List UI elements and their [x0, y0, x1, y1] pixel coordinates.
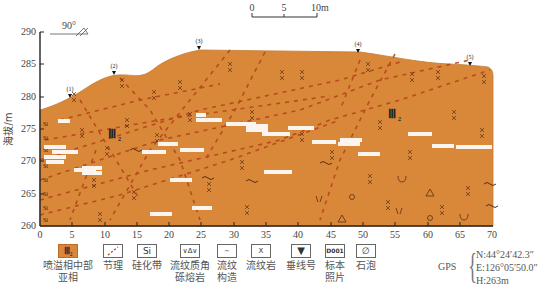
- svg-text:(3): (3): [196, 38, 203, 45]
- legend-item-rhyolitic-breccia-lava: ∨∆∨ 流纹质角 砾熔岩: [168, 244, 212, 284]
- subfacies-swatch-icon: Ⅲ₂: [58, 244, 78, 258]
- svg-text:270: 270: [21, 155, 36, 166]
- svg-text:55: 55: [390, 229, 400, 240]
- svg-text:70: 70: [487, 229, 497, 240]
- svg-text:Si: Si: [43, 135, 48, 141]
- svg-text:(1): (1): [67, 86, 74, 93]
- scale-bar: 0 5 10m: [250, 2, 330, 17]
- svg-text:(4): (4): [355, 41, 362, 48]
- specimen-photo-icon: D001: [325, 244, 345, 258]
- plumb-marker-2: (2): [111, 63, 118, 75]
- plumb-marker-3: (3): [196, 38, 203, 50]
- gps-longitude: E:126°05′50.0″: [476, 261, 538, 274]
- legend-item-specimen-photo: D001 标本 照片: [322, 244, 348, 284]
- plumb-marker-4: (4): [355, 41, 362, 53]
- legend-item-plumb-line: ▼ 垂线号: [284, 244, 318, 272]
- gps-latitude: N:44°24′42.3″: [476, 248, 538, 261]
- legend-item-rhyolite: X 流纹岩: [244, 244, 278, 272]
- cross-section-figure: 0 5 10m 90°: [0, 0, 504, 244]
- svg-text:45: 45: [326, 229, 336, 240]
- spherulite-icon: ∅: [356, 244, 376, 258]
- unit-label-2: Ⅲ: [388, 107, 396, 121]
- svg-text:260: 260: [21, 220, 36, 231]
- joint-icon: [103, 244, 123, 258]
- legend-item-silicified-zone: Si 硅化带: [130, 244, 164, 272]
- svg-text:65: 65: [455, 229, 465, 240]
- svg-text:285: 285: [21, 58, 36, 69]
- gps-label: GPS: [438, 261, 456, 272]
- scale-0: 0: [250, 2, 255, 13]
- svg-text:2: 2: [398, 116, 401, 122]
- rhyolite-icon: X: [251, 244, 271, 258]
- strike-dip-symbol: 90°: [50, 20, 88, 36]
- svg-text:(5): (5): [467, 54, 474, 61]
- svg-text:40: 40: [293, 229, 303, 240]
- svg-text:50: 50: [358, 229, 368, 240]
- svg-text:25: 25: [196, 229, 206, 240]
- svg-text:Si: Si: [43, 121, 48, 127]
- gps-elevation: H:263m: [476, 274, 538, 287]
- svg-text:280: 280: [21, 91, 36, 102]
- svg-text:Si: Si: [43, 217, 48, 223]
- y-axis-title: 海拔/m: [2, 112, 14, 145]
- svg-text:(2): (2): [111, 63, 118, 70]
- dip-angle-label: 90°: [62, 20, 76, 31]
- legend-item-joint: 节理: [100, 244, 126, 272]
- unit-label-1: Ⅲ: [108, 127, 116, 141]
- silicified-zone-icon: Si: [137, 244, 157, 258]
- legend-item-flow-structure: ~ 流纹 构造: [214, 244, 240, 284]
- svg-text:0: 0: [38, 229, 43, 240]
- plumb-line-icon: ▼: [291, 244, 311, 258]
- svg-text:10: 10: [100, 229, 110, 240]
- svg-text:Si: Si: [43, 177, 48, 183]
- scale-5: 5: [282, 2, 287, 13]
- svg-text:20: 20: [164, 229, 174, 240]
- legend: Ⅲ₂ 喷溢相中部 亚相 节理 Si 硅化带 ∨∆∨ 流纹质角 砾熔岩 ~ 流纹 …: [0, 244, 504, 298]
- breccia-lava-icon: ∨∆∨: [180, 244, 200, 258]
- svg-text:15: 15: [132, 229, 142, 240]
- legend-item-eruptive-middle-subfacies: Ⅲ₂ 喷溢相中部 亚相: [40, 244, 96, 284]
- svg-text:30: 30: [229, 229, 239, 240]
- svg-text:35: 35: [261, 229, 271, 240]
- legend-item-spherulite: ∅ 石泡: [352, 244, 380, 272]
- svg-text:265: 265: [21, 188, 36, 199]
- svg-text:5: 5: [70, 229, 75, 240]
- svg-text:60: 60: [423, 229, 433, 240]
- flow-structure-icon: ~: [217, 244, 237, 258]
- svg-text:290: 290: [21, 26, 36, 37]
- y-axis: 260 265 270 275 280 285 290 海拔/m: [2, 26, 44, 231]
- scale-10: 10m: [311, 2, 329, 13]
- svg-text:2: 2: [118, 136, 121, 142]
- svg-text:Si: Si: [43, 205, 48, 211]
- svg-text:275: 275: [21, 123, 36, 134]
